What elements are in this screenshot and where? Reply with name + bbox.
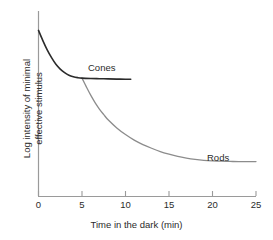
x-axis-title: Time in the dark (min) xyxy=(0,219,273,230)
y-axis-title: Log intensity of minimal effective stimu… xyxy=(21,19,44,199)
cones-series-label: Cones xyxy=(88,62,115,73)
x-tick-label-20: 20 xyxy=(203,199,223,210)
y-axis-title-line-1: Log intensity of minimal xyxy=(21,19,33,199)
dark-adaptation-chart: 0 5 10 15 20 25 Time in the dark (min) L… xyxy=(0,0,273,240)
axes xyxy=(38,11,256,197)
cones-curve xyxy=(39,30,131,79)
x-tick-label-5: 5 xyxy=(72,199,92,210)
x-tick-label-0: 0 xyxy=(29,199,49,210)
data-series xyxy=(39,30,257,161)
rods-curve xyxy=(82,78,256,161)
x-tick-label-15: 15 xyxy=(159,199,179,210)
rods-series-label: Rods xyxy=(207,152,229,163)
x-tick-label-10: 10 xyxy=(116,199,136,210)
x-tick-label-25: 25 xyxy=(246,199,266,210)
x-axis-ticks xyxy=(39,191,257,196)
y-axis-title-line-2: effective stimulus xyxy=(32,19,44,199)
